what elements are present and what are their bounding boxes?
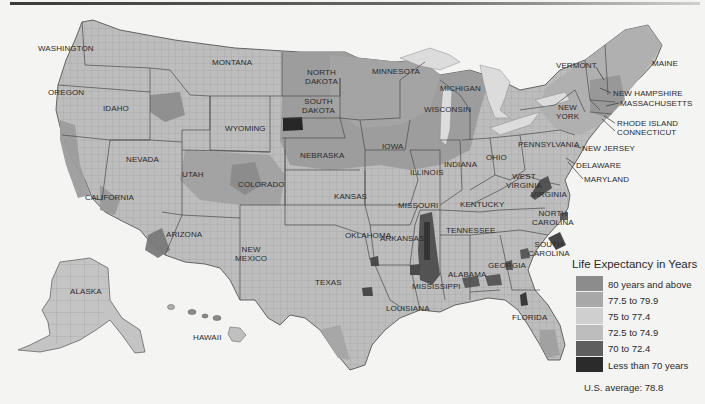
state-label-kentucky: KENTUCKY: [460, 200, 504, 209]
legend-item-72-5-to-74-9: 72.5 to 74.9: [576, 325, 704, 341]
legend-swatch: [576, 341, 603, 357]
state-label-connecticut: CONNECTICUT: [617, 128, 676, 137]
state-label-new-hampshire: NEW HAMPSHIRE: [613, 89, 683, 98]
state-label-california: CALIFORNIA: [85, 193, 134, 202]
legend-item-less-than-70: Less than 70 years: [576, 357, 704, 373]
state-label-michigan: MICHIGAN: [440, 84, 481, 93]
legend-label: 80 years and above: [608, 279, 691, 290]
state-label-maine: MAINE: [652, 59, 678, 68]
state-label-alaska: ALASKA: [70, 287, 102, 296]
state-label-wisconsin: WISCONSIN: [424, 105, 471, 114]
state-label-south-dakota: SOUTH DAKOTA: [302, 97, 335, 115]
state-label-hawaii: HAWAII: [193, 333, 221, 342]
state-label-pennsylvania: PENNSYLVANIA: [518, 140, 579, 149]
legend-label: 77.5 to 79.9: [608, 295, 658, 306]
state-label-texas: TEXAS: [315, 278, 342, 287]
state-label-massachusetts: MASSACHUSETTS: [620, 99, 692, 108]
state-label-new-jersey: NEW JERSEY: [582, 144, 635, 153]
state-label-vermont: VERMONT: [556, 61, 597, 70]
state-label-nebraska: NEBRASKA: [300, 151, 344, 160]
state-label-new-york: NEW YORK: [556, 103, 579, 121]
legend-swatch: [576, 325, 603, 341]
state-label-arizona: ARIZONA: [166, 230, 202, 239]
state-label-missouri: MISSOURI: [398, 201, 438, 210]
state-label-virginia: VIRGINIA: [531, 190, 567, 199]
legend-swatch: [576, 357, 603, 373]
legend-item-80-plus: 80 years and above: [576, 276, 704, 292]
state-label-new-mexico: NEW MEXICO: [235, 245, 267, 263]
state-label-colorado: COLORADO: [238, 180, 285, 189]
state-label-west-virginia: WEST VIRGINIA: [506, 172, 542, 190]
legend: Life Expectancy in Years 80 years and ab…: [576, 258, 704, 393]
state-label-mississippi: MISSISSIPPI: [412, 282, 461, 291]
state-label-kansas: KANSAS: [334, 192, 367, 201]
state-label-georgia: GEORGIA: [488, 261, 526, 270]
state-label-wyoming: WYOMING: [225, 124, 266, 133]
state-label-montana: MONTANA: [212, 58, 252, 67]
state-label-indiana: INDIANA: [444, 160, 477, 169]
state-label-maryland: MARYLAND: [584, 175, 629, 184]
state-label-florida: FLORIDA: [512, 313, 547, 322]
legend-swatch: [576, 276, 603, 292]
legend-swatch: [576, 292, 603, 308]
state-label-tennessee: TENNESSEE: [446, 226, 495, 235]
state-label-arkansas: ARKANSAS: [380, 234, 424, 243]
us-average-value: 78.8: [645, 382, 664, 393]
state-label-washington: WASHINGTON: [38, 44, 94, 53]
legend-swatch: [576, 308, 603, 324]
legend-item-77-5-to-79-9: 77.5 to 79.9: [576, 292, 704, 308]
legend-item-75-to-77-4: 75 to 77.4: [576, 308, 704, 324]
state-label-ohio: OHIO: [486, 153, 507, 162]
legend-label: 75 to 77.4: [608, 311, 650, 322]
state-label-illinois: ILLINOIS: [410, 168, 444, 177]
legend-label: Less than 70 years: [608, 360, 688, 371]
state-label-utah: UTAH: [182, 170, 204, 179]
state-label-minnesota: MINNESOTA: [372, 67, 420, 76]
us-average: U.S. average: 78.8: [584, 382, 704, 393]
legend-label: 72.5 to 74.9: [608, 327, 658, 338]
legend-title: Life Expectancy in Years: [572, 258, 704, 270]
state-label-north-dakota: NORTH DAKOTA: [305, 68, 338, 86]
state-label-delaware: DELAWARE: [576, 161, 621, 170]
state-label-louisiana: LOUISIANA: [386, 304, 430, 313]
state-label-north-carolina: NORTH CAROLINA: [532, 209, 574, 227]
legend-label: 70 to 72.4: [608, 343, 650, 354]
alaska-inset: [18, 258, 145, 353]
legend-item-70-to-72-4: 70 to 72.4: [576, 341, 704, 357]
state-label-south-carolina: SOUTH CAROLINA: [528, 240, 570, 258]
state-label-idaho: IDAHO: [103, 104, 129, 113]
state-label-nevada: NEVADA: [126, 155, 159, 164]
state-label-oregon: OREGON: [48, 88, 84, 97]
state-label-rhode-island: RHODE ISLAND: [617, 119, 678, 128]
state-label-iowa: IOWA: [382, 142, 403, 151]
state-label-alabama: ALABAMA: [448, 270, 487, 279]
us-average-label: U.S. average:: [584, 382, 642, 393]
